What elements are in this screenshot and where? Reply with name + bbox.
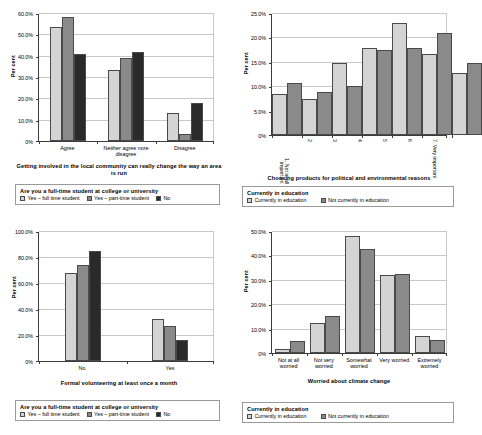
bar-groups	[39, 232, 214, 361]
legend-title: Currently in education	[243, 403, 453, 413]
y-tick-label: 60.0%	[0, 11, 33, 17]
y-tick-label: 20.0%	[232, 302, 266, 308]
bars	[302, 14, 332, 135]
bars	[422, 14, 452, 135]
bar	[77, 265, 89, 361]
legend-label: Yes – part-time student	[94, 411, 149, 417]
x-tick-mark	[97, 141, 98, 144]
x-tick-mark	[377, 353, 378, 356]
legend-swatch	[156, 412, 161, 417]
bar	[176, 340, 188, 361]
bar	[132, 52, 144, 141]
x-axis-label: Extremely worried	[412, 357, 447, 369]
y-tick-label: 30.0%	[232, 278, 266, 284]
legend-items: Yes – full time studentYes – part-time s…	[16, 195, 219, 204]
legend-label: No	[163, 411, 170, 417]
panel-climate-change-worry: Per cent0%10.0%20.0%30.0%40.0%50.0%Not a…	[232, 218, 463, 435]
x-tick-mark	[342, 353, 343, 356]
x-axis-label-text: 4	[356, 139, 362, 142]
chart-climate-change-worry: Per cent0%10.0%20.0%30.0%40.0%50.0%Not a…	[232, 218, 463, 435]
legend-swatch	[156, 196, 161, 201]
x-axis-label: Yes	[126, 365, 214, 371]
legend-label: No	[163, 195, 170, 201]
legend-item[interactable]: Currently in education	[247, 413, 307, 419]
legend-item[interactable]: Currently in education	[247, 197, 307, 203]
bars	[167, 14, 203, 141]
panel-formal-volunteering: Per cent0%20.0%40.0%60.0%80.0%100.0%NoYe…	[0, 218, 232, 435]
bar-group	[362, 14, 392, 135]
bar	[395, 274, 410, 353]
x-axis-labels: NoYes	[38, 365, 214, 371]
legend-swatch	[87, 196, 92, 201]
x-tick-mark	[332, 135, 333, 138]
legend-item[interactable]: Yes – full time student	[20, 195, 80, 201]
x-axis-label: No	[38, 365, 126, 371]
legend-item[interactable]: Not currently in education	[321, 197, 389, 203]
bars	[392, 14, 422, 135]
x-tick-mark	[39, 141, 40, 144]
x-tick-mark	[452, 135, 453, 138]
bar	[89, 251, 101, 361]
legend-title: Currently in education	[243, 187, 453, 197]
y-tick-label: 20.0%	[232, 35, 266, 41]
x-tick-mark	[272, 353, 273, 356]
x-axis-title: Formal volunteering at least once a mont…	[14, 380, 224, 387]
plot-area	[271, 232, 447, 354]
y-tick-label: 25.0%	[232, 11, 266, 17]
legend-item[interactable]: Yes – full time student	[20, 411, 80, 417]
bar	[302, 99, 317, 135]
bar	[310, 323, 325, 353]
bar	[152, 319, 164, 361]
x-tick-mark	[422, 135, 423, 138]
bar	[325, 316, 340, 353]
x-axis-label: Not at all worried	[271, 357, 306, 369]
bar-group	[307, 232, 342, 353]
legend-label: Currently in education	[255, 197, 307, 203]
y-tick-label: 0%	[232, 133, 266, 139]
y-tick-label: 10.0%	[232, 327, 266, 333]
bars	[50, 14, 86, 141]
plot-area	[271, 14, 447, 136]
bar-group	[342, 232, 377, 353]
y-tick-label: 40.0%	[0, 307, 33, 313]
bar-group	[332, 14, 362, 135]
y-tick-label: 80.0%	[0, 255, 33, 261]
bars	[152, 232, 188, 361]
plot-area	[38, 232, 214, 362]
bar	[422, 54, 437, 135]
legend-item[interactable]: No	[156, 195, 170, 201]
bar-group	[422, 14, 452, 135]
y-tick-label: 0%	[0, 139, 33, 145]
bars	[452, 14, 482, 135]
x-axis-label-text: 6	[406, 139, 412, 142]
x-axis-labels: AgreeNeither agree nore disagreeDisagree	[38, 145, 214, 157]
x-tick-mark	[272, 135, 273, 138]
legend-item[interactable]: No	[156, 411, 170, 417]
y-tick-label: 10.0%	[232, 84, 266, 90]
y-tick-label: 30.0%	[0, 75, 33, 81]
x-axis-label: Very worried	[377, 357, 412, 369]
bars	[362, 14, 392, 135]
bar	[345, 236, 360, 353]
x-axis-title: Choosing products for political and envi…	[238, 175, 460, 182]
bar	[437, 33, 452, 135]
x-tick-mark	[39, 361, 40, 364]
legend-label: Not currently in education	[328, 197, 389, 203]
chart-choosing-products: Per cent0%5.0%10.0%15.0%20.0%25.0%1. Not…	[232, 0, 463, 218]
legend-item[interactable]: Yes – part-time student	[87, 411, 149, 417]
plot-area	[38, 14, 214, 142]
y-tick-label: 10.0%	[0, 118, 33, 124]
y-tick-label: 5.0%	[232, 109, 266, 115]
legend-item[interactable]: Not currently in education	[321, 413, 389, 419]
bar-groups	[272, 232, 447, 353]
legend-swatch	[321, 198, 326, 203]
legend-item[interactable]: Yes – part-time student	[87, 195, 149, 201]
x-tick-mark	[446, 135, 447, 138]
legend-label: Yes – full time student	[28, 411, 80, 417]
bar	[347, 86, 362, 135]
bar-group	[392, 14, 422, 135]
legend-label: Yes – part-time student	[94, 195, 149, 201]
bar	[332, 63, 347, 135]
x-tick-mark	[412, 353, 413, 356]
